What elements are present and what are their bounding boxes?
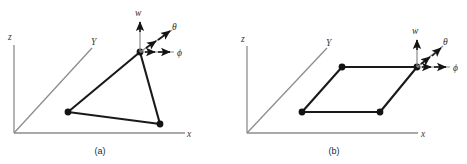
panel-a-theta-label: θ	[172, 22, 177, 32]
panel-a-caption: (a)	[95, 146, 106, 156]
panel-b-parallelogram	[302, 67, 417, 112]
panel-b-theta-vector-head-outer	[432, 48, 441, 56]
panel-b-y-axis	[247, 48, 327, 133]
panel-a-w-label: w	[135, 8, 142, 18]
panel-a-vertex-lower-left	[65, 109, 72, 116]
panel-b-caption: (b)	[329, 146, 340, 156]
panel-a-theta-vector-head-outer	[158, 31, 170, 40]
panel-a-vertex-lower-right	[157, 121, 164, 128]
panel-b-vertex-bottom-right	[377, 109, 384, 116]
panel-a-y-axis	[14, 48, 92, 133]
panel-a: z Y x w θ ϕ (a)	[7, 8, 192, 156]
panel-b-z-label: z	[240, 34, 245, 44]
panel-a-triangle	[68, 52, 160, 124]
panel-b-w-label: w	[412, 26, 419, 36]
panel-a-x-label: x	[186, 129, 192, 139]
panel-a-z-label: z	[7, 32, 12, 42]
panel-a-y-label: Y	[91, 37, 98, 47]
panel-b: z Y x w θ ϕ (b)	[240, 26, 458, 156]
figure-svg: z Y x w θ ϕ (a) z Y x	[0, 0, 467, 164]
panel-b-vertex-top-left	[339, 64, 346, 71]
panel-b-phi-label: ϕ	[453, 63, 458, 73]
panel-b-x-label: x	[420, 129, 426, 139]
panel-b-y-label: Y	[326, 38, 333, 48]
panel-b-vertex-bottom-left	[299, 109, 306, 116]
panel-b-theta-vector-head-inner	[421, 57, 430, 64]
panel-a-theta-vector-head-inner	[146, 41, 156, 48]
panel-b-theta-label: θ	[443, 37, 448, 47]
figure-container: z Y x w θ ϕ (a) z Y x	[0, 0, 467, 164]
panel-a-phi-label: ϕ	[177, 48, 182, 58]
